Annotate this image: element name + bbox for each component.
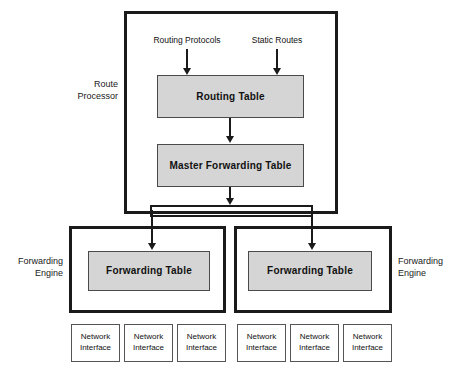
network-interface-label: Network Interface	[352, 332, 383, 354]
master-to-bus-arrowhead	[226, 198, 234, 205]
network-interface-label: Network Interface	[80, 332, 111, 354]
router-architecture-diagram: Route Processor Routing Protocols Static…	[0, 0, 460, 371]
master-forwarding-table-label: Master Forwarding Table	[169, 160, 291, 172]
forwarding-table-left-label: Forwarding Table	[106, 265, 192, 277]
network-interface-label: Network Interface	[186, 332, 217, 354]
routing-to-master-arrowhead	[226, 136, 234, 143]
routing-table-label: Routing Table	[196, 91, 265, 103]
forwarding-table-left-box: Forwarding Table	[88, 251, 210, 291]
forwarding-engine-left-label: Forwarding Engine	[0, 256, 63, 279]
network-interface-box: Network Interface	[124, 324, 173, 362]
network-interface-label: Network Interface	[133, 332, 164, 354]
forwarding-table-right-box: Forwarding Table	[248, 251, 372, 291]
routing-protocols-connector	[186, 49, 188, 69]
forwarding-engine-right-label: Forwarding Engine	[398, 256, 460, 279]
network-interface-box: Network Interface	[290, 324, 339, 362]
routing-protocols-label: Routing Protocols	[137, 35, 237, 45]
static-routes-connector	[276, 49, 278, 69]
network-interface-label: Network Interface	[246, 332, 277, 354]
network-interface-box: Network Interface	[237, 324, 286, 362]
route-processor-label: Route Processor	[58, 79, 118, 102]
routing-protocols-arrowhead	[183, 68, 191, 75]
routing-to-master-connector	[229, 118, 231, 137]
network-interface-box: Network Interface	[71, 324, 120, 362]
distribution-bus	[150, 205, 313, 217]
master-forwarding-table-box: Master Forwarding Table	[157, 144, 304, 187]
network-interface-label: Network Interface	[299, 332, 330, 354]
static-routes-label: Static Routes	[234, 35, 320, 45]
routing-table-box: Routing Table	[157, 75, 304, 118]
network-interface-box: Network Interface	[177, 324, 226, 362]
network-interface-box: Network Interface	[343, 324, 392, 362]
forwarding-table-right-label: Forwarding Table	[267, 265, 353, 277]
static-routes-arrowhead	[273, 68, 281, 75]
